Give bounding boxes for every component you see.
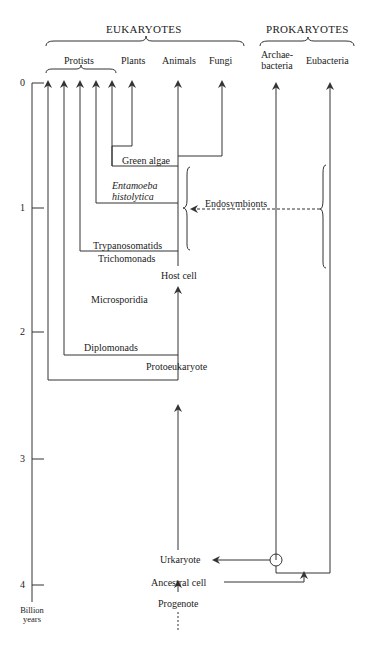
progenote-label: Progenote bbox=[158, 598, 199, 609]
tree-diagram bbox=[0, 0, 369, 648]
prokaryotes-brace bbox=[260, 37, 354, 46]
axis-tick-1: 1 bbox=[20, 202, 25, 213]
protoeukaryote-label: Protoeukaryote bbox=[146, 361, 207, 372]
entamoeba-label-1: Entamoeba bbox=[112, 180, 158, 191]
prokaryotes-header: PROKARYOTES bbox=[266, 24, 349, 35]
axis-tick-3: 3 bbox=[20, 453, 25, 464]
entamoeba-label-2: histolytica bbox=[112, 191, 154, 202]
animals-label: Animals bbox=[162, 55, 196, 66]
ancestral-cell-label: Ancestral cell bbox=[151, 577, 206, 588]
fungi-label: Fungi bbox=[209, 55, 232, 66]
trichomonads-label: Trichomonads bbox=[98, 253, 155, 264]
axis-tick-2: 2 bbox=[20, 326, 25, 337]
protists-brace bbox=[46, 65, 116, 73]
axis-unit-label: Billion years bbox=[14, 606, 50, 624]
axis-tick-4: 4 bbox=[20, 579, 25, 590]
host-cell-label: Host cell bbox=[161, 270, 197, 281]
microsporidia-label: Microsporidia bbox=[91, 294, 148, 305]
urkaryote-label: Urkaryote bbox=[160, 554, 201, 565]
axis-tick-0: 0 bbox=[20, 77, 25, 88]
plants-label: Plants bbox=[121, 55, 145, 66]
eukaryotes-header: EUKARYOTES bbox=[106, 24, 182, 35]
protists-label: Protists bbox=[64, 55, 94, 66]
green-algae-label: Green algae bbox=[122, 155, 170, 166]
trypanosomatids-label: Trypanosomatids bbox=[93, 240, 162, 251]
eubacteria-label: Eubacteria bbox=[306, 55, 349, 66]
diplomonads-label: Diplomonads bbox=[84, 342, 138, 353]
eukaryotes-brace bbox=[46, 36, 244, 46]
endosymbionts-label: Endosymbionts bbox=[205, 198, 267, 209]
archaebacteria-label: Archae- bacteria bbox=[258, 49, 296, 71]
